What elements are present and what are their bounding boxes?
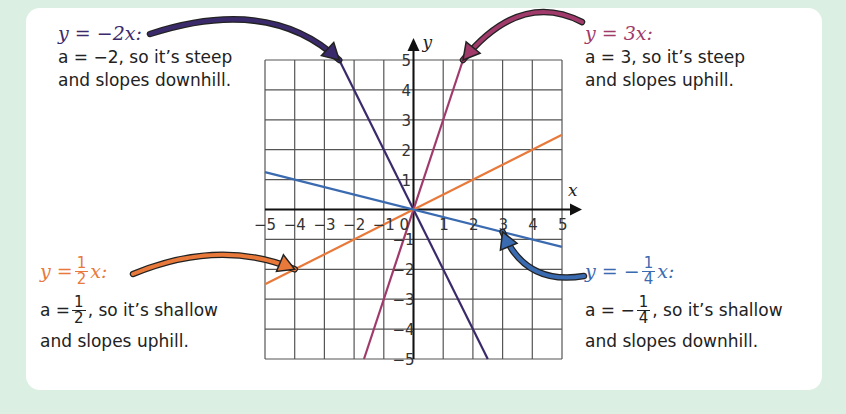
description-negquarter-line1: a = − 1 4 , so it’s shallow: [585, 295, 783, 326]
desc-prefix: a = −: [585, 299, 635, 322]
y-axis-arrowhead: [408, 38, 420, 51]
arrowhead-half: [276, 255, 294, 272]
desc-suffix: , so it’s shallow: [88, 299, 218, 322]
description-half-line2: and slopes uphill.: [40, 330, 218, 353]
y-tick-label: −4: [393, 321, 415, 339]
desc-fraction: 1 4: [637, 295, 651, 326]
description-pos3-line1: a = 3, so it’s steep: [585, 46, 745, 69]
equation-half: y = 1 2 x:: [40, 256, 107, 287]
equation-half-prefix: y =: [40, 260, 73, 283]
y-tick-label: −1: [393, 231, 415, 249]
arrow-pos3: [463, 12, 582, 60]
x-tick-label: −3: [313, 216, 335, 234]
x-tick-label: −2: [343, 216, 365, 234]
y-axis-label: y: [422, 32, 433, 52]
annotation-negquarter: y = − 1 4 x: a = − 1 4 , so it’s shallow…: [585, 256, 783, 353]
y-tick-label: 2: [402, 142, 412, 160]
description-half-line1: a = 1 2 , so it’s shallow: [40, 295, 218, 326]
desc-prefix: a =: [40, 299, 70, 322]
desc-suffix: , so it’s shallow: [652, 299, 782, 322]
arrow-outline-pos3: [463, 12, 582, 60]
x-axis-arrowhead: [570, 204, 582, 216]
x-axis-label: x: [568, 180, 578, 200]
y-tick-label: 4: [402, 82, 412, 100]
x-tick-label: 4: [528, 216, 538, 234]
y-tick-label: −2: [393, 261, 415, 279]
x-tick-label: −5: [254, 216, 276, 234]
equation-neg2: y = −2x:: [58, 22, 142, 45]
y-tick-label: 1: [402, 172, 412, 190]
equation-half-suffix: x:: [90, 260, 107, 283]
desc-fraction: 1 2: [72, 295, 86, 326]
equation-negquarter-suffix: x:: [657, 260, 674, 283]
y-tick-label: −5: [393, 351, 415, 369]
annotation-neg2: y = −2x: a = −2, so it’s steep and slope…: [58, 22, 232, 92]
equation-negquarter-prefix: y = −: [585, 260, 640, 283]
x-tick-label: 2: [469, 216, 479, 234]
equation-negquarter-fraction: 1 4: [642, 256, 656, 287]
description-neg2-line2: and slopes downhill.: [58, 69, 232, 92]
fraction-denominator: 2: [72, 311, 86, 326]
y-tick-label: 3: [402, 112, 412, 130]
fraction-denominator: 2: [75, 272, 89, 287]
annotation-pos3: y = 3x: a = 3, so it’s steep and slopes …: [585, 22, 745, 92]
y-tick-label: −3: [393, 291, 415, 309]
x-tick-label: −4: [284, 216, 306, 234]
equation-half-fraction: 1 2: [75, 256, 89, 287]
fraction-denominator: 4: [642, 272, 656, 287]
x-tick-label: 5: [558, 216, 568, 234]
description-neg2-line1: a = −2, so it’s steep: [58, 46, 232, 69]
x-tick-label: 1: [439, 216, 449, 234]
equation-negquarter: y = − 1 4 x:: [585, 256, 674, 287]
y-tick-label: 5: [402, 52, 412, 70]
equation-pos3: y = 3x:: [585, 22, 653, 45]
annotation-half: y = 1 2 x: a = 1 2 , so it’s shallow and…: [40, 256, 218, 353]
description-pos3-line2: and slopes uphill.: [585, 69, 745, 92]
axes: xy: [265, 32, 582, 359]
description-negquarter-line2: and slopes downhill.: [585, 330, 783, 353]
fraction-denominator: 4: [637, 311, 651, 326]
